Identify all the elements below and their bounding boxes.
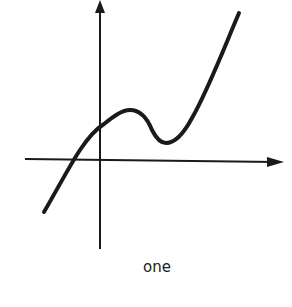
- x-axis: [25, 157, 284, 167]
- x-axis-arrow-icon: [267, 157, 284, 167]
- figure-caption: one: [0, 258, 292, 276]
- y-axis-arrow-icon: [95, 0, 105, 13]
- function-curve: [44, 13, 239, 212]
